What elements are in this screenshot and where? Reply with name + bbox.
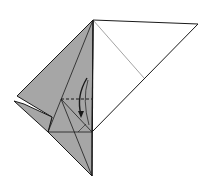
origami-diagram bbox=[0, 0, 203, 184]
grey-body bbox=[17, 20, 93, 176]
